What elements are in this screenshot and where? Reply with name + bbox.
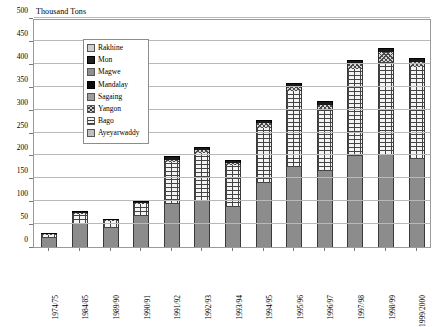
bar-column[interactable] [133, 201, 149, 247]
legend-item-label: Mon [98, 56, 112, 64]
bar-segment-ayeyarwaddy [103, 228, 119, 247]
x-axis-tick-label: 1995/96 [297, 295, 305, 320]
legend-item-label: Bago [98, 117, 114, 125]
bar-segment-ayeyarwaddy [317, 171, 333, 247]
x-axis-labels: 1974/751984/851989/901990/911991/921992/… [33, 249, 431, 297]
legend-item-label: Sagaing [98, 93, 122, 101]
gridline [34, 17, 430, 18]
gridline [34, 154, 430, 155]
x-axis-tick-label: 1990/91 [144, 295, 152, 320]
gridline [34, 223, 430, 224]
x-axis-tick-label: 1974/75 [52, 295, 60, 320]
y-axis-tick-label: 250 [17, 122, 28, 130]
legend-item[interactable]: Yangon [87, 103, 145, 115]
x-axis-tick-mark [110, 248, 111, 251]
bar-column[interactable] [72, 211, 88, 247]
x-axis-tick-mark [354, 248, 355, 251]
x-axis-tick-mark [232, 248, 233, 251]
x-axis-tick-label: 1996/97 [327, 295, 335, 320]
bar-segment-ayeyarwaddy [286, 167, 302, 247]
x-axis-tick-label: 1992/93 [205, 295, 213, 320]
gridline [34, 177, 430, 178]
legend-item[interactable]: Ayeyarwaddy [87, 127, 145, 139]
ayeyarwaddy-swatch [87, 129, 95, 137]
x-axis-tick-mark [263, 248, 264, 251]
x-axis-tick-label: 1991/92 [174, 295, 182, 320]
x-axis-tick-label: 1994/95 [266, 295, 274, 320]
mon-swatch [87, 56, 95, 64]
legend-item-label: Magwe [98, 68, 121, 76]
legend-item[interactable]: Sagaing [87, 91, 145, 103]
y-axis: 050100150200250300350400450500 [0, 19, 33, 248]
bar-column[interactable] [164, 156, 180, 247]
legend-item[interactable]: Rakhine [87, 42, 145, 54]
x-axis-tick-mark [171, 248, 172, 251]
x-axis-tick-label: 1989/90 [113, 295, 121, 320]
bar-segment-ayeyarwaddy [41, 238, 57, 247]
x-axis-tick-label: 1997/98 [358, 295, 366, 320]
bar-segment-bago [409, 67, 425, 159]
magwe-swatch [87, 68, 95, 76]
x-axis-tick-mark [293, 248, 294, 251]
bar-segment-ayeyarwaddy [164, 204, 180, 248]
bar-segment-ayeyarwaddy [256, 183, 272, 247]
y-axis-tick-label: 200 [17, 144, 28, 152]
rakhine-swatch [87, 44, 95, 52]
bar-segment-bago [347, 69, 363, 156]
bar-segment-bago [133, 204, 149, 216]
gridline [34, 200, 430, 201]
y-axis-tick-label: 0 [24, 236, 28, 244]
x-axis-tick-label: 1998/99 [389, 295, 397, 320]
bar-segment-yangon [378, 52, 394, 61]
x-axis-tick-mark [201, 248, 202, 251]
bar-segment-ayeyarwaddy [133, 216, 149, 247]
bar-segment-bago [256, 128, 272, 183]
x-axis-tick-mark [385, 248, 386, 251]
x-axis-tick-mark [48, 248, 49, 251]
bar-column[interactable] [378, 48, 394, 247]
x-axis-tick-label: 1993/94 [236, 295, 244, 320]
bar-column[interactable] [317, 101, 333, 247]
bar-segment-ayeyarwaddy [347, 156, 363, 247]
y-axis-unit-label: Thousand Tons [36, 7, 86, 17]
bar-segment-ayeyarwaddy [409, 159, 425, 247]
bar-column[interactable] [41, 233, 57, 247]
x-axis-tick-label: 1999/2000 [419, 295, 427, 327]
bar-segment-bago [164, 162, 180, 203]
x-axis-tick-mark [416, 248, 417, 251]
x-axis-tick-mark [324, 248, 325, 251]
bar-column[interactable] [194, 147, 210, 247]
sagaing-swatch [87, 93, 95, 101]
legend-item-label: Rakhine [98, 44, 123, 52]
y-axis-tick-label: 50 [21, 213, 29, 221]
bar-segment-ayeyarwaddy [225, 207, 241, 247]
bar-segment-ayeyarwaddy [72, 224, 88, 247]
legend-item[interactable]: Magwe [87, 66, 145, 78]
x-axis-tick-label: 1984/85 [82, 295, 90, 320]
bar-segment-bago [286, 91, 302, 167]
y-axis-tick-label: 300 [17, 99, 28, 107]
legend-item[interactable]: Mandalay [87, 79, 145, 91]
legend-item[interactable]: Bago [87, 115, 145, 127]
x-axis-tick-mark [79, 248, 80, 251]
bago-swatch [87, 117, 95, 125]
y-axis-tick-label: 450 [17, 30, 28, 38]
legend-item[interactable]: Mon [87, 54, 145, 66]
bar-column[interactable] [256, 120, 272, 247]
y-axis-tick-label: 350 [17, 76, 28, 84]
y-axis-tick-label: 100 [17, 190, 28, 198]
bar-segment-ayeyarwaddy [378, 155, 394, 247]
y-axis-tick-label: 150 [17, 167, 28, 175]
bar-segment-bago [317, 110, 333, 172]
yangon-swatch [87, 105, 95, 113]
legend: RakhineMonMagweMandalaySagaingYangonBago… [83, 39, 149, 144]
legend-item-label: Ayeyarwaddy [98, 129, 139, 137]
y-axis-tick-label: 400 [17, 53, 28, 61]
y-axis-tick-label: 500 [17, 7, 28, 15]
x-axis-tick-mark [140, 248, 141, 251]
legend-item-label: Yangon [98, 105, 121, 113]
legend-item-label: Mandalay [98, 81, 128, 89]
bar-column[interactable] [225, 160, 241, 247]
mandalay-swatch [87, 81, 95, 89]
